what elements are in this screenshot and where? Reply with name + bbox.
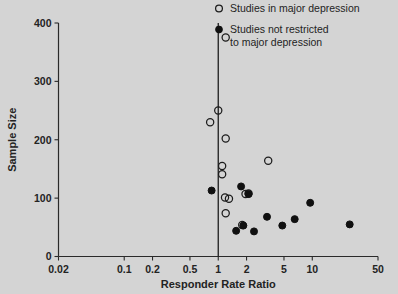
plot-canvas: 01002003004000.020.10.20.51251050 Respon… xyxy=(0,0,398,294)
x-tick-label: 2 xyxy=(244,263,250,275)
data-point xyxy=(245,191,252,198)
y-tick-label: 400 xyxy=(34,17,52,29)
axes-group xyxy=(55,23,379,261)
legend-group: Studies in major depressionStudies not r… xyxy=(216,2,360,48)
legend-label-not-restricted: Studies not restricted xyxy=(230,23,329,35)
data-point xyxy=(208,187,215,194)
data-point xyxy=(264,213,271,220)
x-axis-title: Responder Rate Ratio xyxy=(161,278,276,290)
x-tick-label: 5 xyxy=(281,263,287,275)
tick-labels-group: 01002003004000.020.10.20.51251050 xyxy=(34,17,384,275)
y-tick-label: 200 xyxy=(34,134,52,146)
y-tick-label: 100 xyxy=(34,192,52,204)
data-point xyxy=(240,222,247,229)
data-point xyxy=(291,216,298,223)
x-tick-label: 0.02 xyxy=(48,263,69,275)
data-point xyxy=(233,227,240,234)
data-point xyxy=(222,34,229,41)
data-point xyxy=(222,210,229,217)
legend-open-circle-icon xyxy=(216,5,223,12)
data-point xyxy=(251,228,258,235)
x-tick-label: 0.2 xyxy=(145,263,160,275)
data-points-group xyxy=(207,34,354,235)
data-point xyxy=(279,222,286,229)
legend-label-major-depression: Studies in major depression xyxy=(230,2,360,14)
legend-label-not-restricted-line2: to major depression xyxy=(230,36,322,48)
scatter-plot-figure: 01002003004000.020.10.20.51251050 Respon… xyxy=(0,0,398,294)
x-tick-label: 50 xyxy=(372,263,384,275)
data-point xyxy=(222,135,229,142)
x-tick-label: 10 xyxy=(306,263,318,275)
data-point xyxy=(238,183,245,190)
data-point xyxy=(207,119,214,126)
x-tick-label: 0.5 xyxy=(183,263,198,275)
data-point xyxy=(307,199,314,206)
legend-filled-circle-icon xyxy=(216,26,223,33)
x-tick-label: 0.1 xyxy=(117,263,132,275)
y-tick-label: 0 xyxy=(46,250,52,262)
y-axis-title: Sample Size xyxy=(6,108,18,172)
data-point xyxy=(219,162,226,169)
data-point xyxy=(346,221,353,228)
data-point xyxy=(265,157,272,164)
x-tick-label: 1 xyxy=(215,263,221,275)
data-point xyxy=(219,171,226,178)
y-tick-label: 300 xyxy=(34,75,52,87)
